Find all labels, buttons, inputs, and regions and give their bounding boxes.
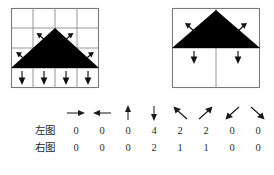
left-figure-canvas (11, 8, 99, 88)
cell-left-left: 0 (89, 122, 115, 139)
arrow-down-right-icon (245, 104, 271, 122)
table-corner-cell (27, 104, 63, 122)
cell-right-left: 0 (89, 139, 115, 156)
cell-left-down-left: 0 (219, 122, 245, 139)
table-row: 右图 0 0 0 2 1 1 0 0 (27, 139, 271, 156)
arrow-up-right-icon (193, 104, 219, 122)
cell-right-right: 0 (63, 139, 89, 156)
cell-left-right: 0 (63, 122, 89, 139)
right-arrow-down-2 (235, 51, 242, 64)
cell-right-down-right: 0 (245, 139, 271, 156)
page-root: 左图 0 0 0 4 2 2 0 0 右图 0 0 0 2 1 (0, 0, 274, 175)
cell-left-up-left: 2 (167, 122, 193, 139)
cell-left-down-right: 0 (245, 122, 271, 139)
cell-left-up-right: 2 (193, 122, 219, 139)
table: 左图 0 0 0 4 2 2 0 0 右图 0 0 0 2 1 (27, 104, 271, 156)
arrow-left-icon (89, 104, 115, 122)
cell-right-down: 2 (141, 139, 167, 156)
cell-right-down-left: 0 (219, 139, 245, 156)
left-arrow-down-3 (63, 71, 70, 85)
cell-left-up: 0 (115, 122, 141, 139)
row-label-right-figure: 右图 (27, 139, 63, 156)
right-triangle-shape (172, 10, 260, 48)
left-arrow-up-left-2 (16, 52, 25, 59)
cell-left-down: 4 (141, 122, 167, 139)
left-figure (11, 8, 99, 88)
left-arrow-up-left-1 (37, 33, 46, 40)
arrow-down-left-icon (219, 104, 245, 122)
left-arrow-down-4 (85, 71, 92, 85)
right-arrow-up-left-1 (185, 23, 195, 32)
left-arrow-up-right-1 (65, 33, 74, 40)
cell-right-up-right: 1 (193, 139, 219, 156)
table-header (27, 104, 271, 122)
arrow-up-icon (115, 104, 141, 122)
arrow-down-icon (141, 104, 167, 122)
cell-right-up-left: 1 (167, 139, 193, 156)
cell-right-up: 0 (115, 139, 141, 156)
table-header-row (27, 104, 271, 122)
left-arrow-down-2 (41, 71, 48, 85)
arrow-up-left-icon (167, 104, 193, 122)
row-label-left-figure: 左图 (27, 122, 63, 139)
arrow-right-icon (63, 104, 89, 122)
left-arrow-up-right-2 (86, 52, 95, 59)
direction-histogram-table: 左图 0 0 0 4 2 2 0 0 右图 0 0 0 2 1 (0, 100, 274, 172)
right-arrow-down-1 (191, 51, 198, 64)
table-body: 左图 0 0 0 4 2 2 0 0 右图 0 0 0 2 1 (27, 122, 271, 156)
table-row: 左图 0 0 0 4 2 2 0 0 (27, 122, 271, 139)
right-arrow-up-right-1 (237, 23, 247, 32)
right-figure-canvas (172, 8, 260, 88)
figures-row (0, 0, 274, 95)
left-arrow-down-1 (19, 71, 26, 85)
right-figure (172, 8, 260, 88)
